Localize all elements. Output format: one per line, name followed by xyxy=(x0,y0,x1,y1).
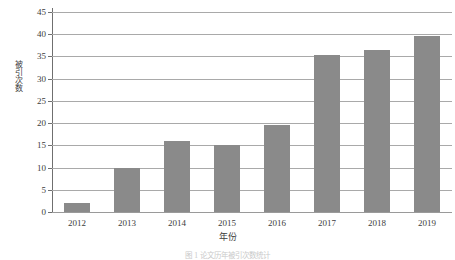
x-tick-label-2013: 2013 xyxy=(118,218,136,228)
x-tick-label-2014: 2014 xyxy=(168,218,186,228)
bar-slot-2013 xyxy=(102,12,152,212)
bar-2017[interactable] xyxy=(314,55,340,212)
x-tick-label-2019: 2019 xyxy=(418,218,436,228)
bars-layer xyxy=(52,12,452,212)
bar-2016[interactable] xyxy=(264,125,290,212)
plot-inner: 051015202530354045 201220132014201520162… xyxy=(52,12,452,212)
y-axis-title: 被引次数 xyxy=(4,60,22,92)
bar-slot-2015 xyxy=(202,12,252,212)
gridline-0 xyxy=(52,212,452,213)
bar-2014[interactable] xyxy=(164,141,190,212)
citation-bar-chart-figure: 被引次数 051015202530354045 2012201320142015… xyxy=(0,0,455,260)
y-tick-label-15: 15 xyxy=(37,141,46,150)
plot-area: 051015202530354045 201220132014201520162… xyxy=(52,12,452,212)
x-tick-label-2018: 2018 xyxy=(368,218,386,228)
bar-slot-2014 xyxy=(152,12,202,212)
bar-slot-2019 xyxy=(402,12,452,212)
y-tick-label-0: 0 xyxy=(42,208,47,217)
y-tick-label-40: 40 xyxy=(37,30,46,39)
y-tick-label-20: 20 xyxy=(37,119,46,128)
bar-2012[interactable] xyxy=(64,203,90,212)
y-tick-label-30: 30 xyxy=(37,74,46,83)
x-tick-label-2017: 2017 xyxy=(318,218,336,228)
bar-2013[interactable] xyxy=(114,168,140,212)
bar-2019[interactable] xyxy=(414,36,440,212)
figure-caption: 图 1 论文历年被引次数统计 xyxy=(0,251,455,260)
bar-slot-2016 xyxy=(252,12,302,212)
y-tick-label-45: 45 xyxy=(37,8,46,17)
bar-2018[interactable] xyxy=(364,50,390,212)
y-tick-mark-0 xyxy=(48,212,52,213)
bar-slot-2018 xyxy=(352,12,402,212)
y-tick-label-25: 25 xyxy=(37,96,46,105)
bar-slot-2012 xyxy=(52,12,102,212)
y-tick-label-35: 35 xyxy=(37,52,46,61)
x-tick-label-2012: 2012 xyxy=(68,218,86,228)
y-tick-label-10: 10 xyxy=(37,163,46,172)
x-tick-label-2016: 2016 xyxy=(268,218,286,228)
x-tick-label-2015: 2015 xyxy=(218,218,236,228)
y-tick-label-5: 5 xyxy=(42,185,47,194)
bar-slot-2017 xyxy=(302,12,352,212)
x-axis-title: 年份 xyxy=(0,232,455,243)
bar-2015[interactable] xyxy=(214,145,240,212)
